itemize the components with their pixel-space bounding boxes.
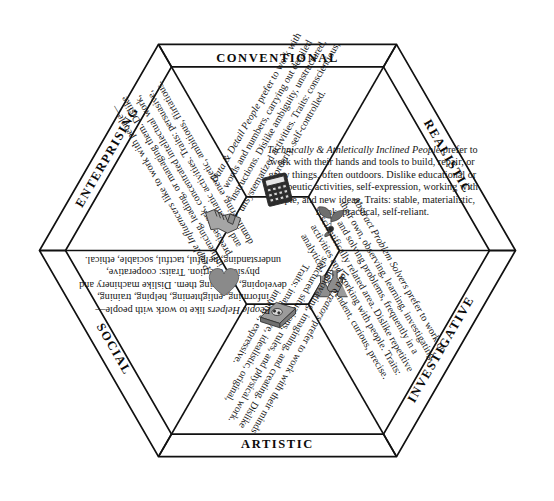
segment-body-realistic: prefer to work with their hands and tool… xyxy=(267,144,478,218)
band-label-social: SOCIAL xyxy=(94,321,135,378)
calculator-icon xyxy=(257,171,299,207)
segment-lead-social: People Helpers xyxy=(207,305,270,316)
band-label-artistic: ARTISTIC xyxy=(241,437,314,451)
segment-description-social: People Helpers like to work with people—… xyxy=(76,253,290,316)
hexagon-diagram: REALISTICINVESTIGATIVEARTISTICSOCIALENTE… xyxy=(0,0,554,501)
